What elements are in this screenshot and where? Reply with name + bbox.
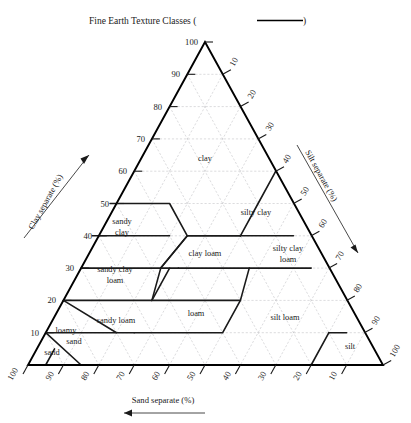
bottom-axis-tick-labels: 100 90 80 70 60 50 40 30 20 10	[5, 366, 339, 382]
bottom-tick-2: 80	[78, 370, 91, 382]
left-tick-4: 60	[118, 166, 127, 176]
bottom-tick-8: 20	[291, 370, 304, 382]
label-silt: silt	[345, 342, 356, 351]
label-silty-clay-loam-line2: loam	[280, 255, 297, 264]
right-axis-arrow-shaft	[297, 145, 358, 253]
label-sandy-clay-line2: clay	[115, 228, 130, 237]
bottom-tick-4: 60	[149, 370, 162, 382]
bottom-tick-0: 100	[5, 366, 20, 382]
ternary-grid	[46, 74, 365, 365]
label-silty-clay-loam-line1: silty clay	[273, 244, 304, 253]
left-axis-title-group: Clay separate (%)	[24, 155, 89, 238]
right-axis-arrowhead	[351, 245, 359, 254]
left-axis-arrowhead	[81, 155, 90, 164]
label-silty-clay: silty clay	[241, 208, 272, 217]
bottom-tick-1: 90	[43, 370, 56, 382]
bottom-tick-6: 40	[220, 370, 233, 382]
label-loamy-sand-line1: loamy	[56, 326, 78, 335]
right-tick-4: 50	[298, 185, 311, 197]
label-loam: loam	[188, 309, 205, 318]
right-tick-5: 60	[316, 217, 329, 229]
label-sandy-loam: sandy loam	[97, 316, 136, 325]
left-tick-3: 70	[136, 134, 145, 144]
ternary-diagram-svg: Fine Earth Texture Classes ( )	[0, 0, 411, 423]
label-clay-loam: clay loam	[189, 249, 222, 258]
texture-class-labels: clay silty clay sandy clay clay loam sil…	[44, 154, 355, 357]
label-sand: sand	[44, 348, 60, 357]
tick-marks	[23, 42, 391, 374]
left-tick-6: 40	[83, 231, 92, 241]
bottom-axis-title: Sand separate (%)	[132, 395, 195, 405]
soil-texture-triangle-figure: Fine Earth Texture Classes ( )	[0, 0, 411, 423]
right-axis-title: Silt separate (%)	[303, 148, 340, 203]
chart-title-close-paren: )	[303, 16, 306, 27]
chart-title: Fine Earth Texture Classes ( )	[89, 16, 306, 27]
bottom-tick-5: 50	[185, 370, 198, 382]
bottom-axis-arrowhead	[124, 410, 132, 417]
right-tick-8: 90	[369, 314, 382, 326]
right-tick-6: 70	[333, 249, 346, 261]
label-sandy-clay-loam-line2: loam	[107, 276, 124, 285]
bottom-tick-7: 30	[255, 370, 268, 382]
right-tick-3: 40	[280, 152, 293, 164]
chart-title-text: Fine Earth Texture Classes (	[89, 16, 196, 27]
label-sandy-clay-loam-line1: sandy clay	[97, 265, 133, 274]
bottom-tick-3: 70	[114, 370, 127, 382]
texture-class-boundaries	[46, 171, 347, 365]
right-axis-title-group: Silt separate (%)	[297, 145, 358, 253]
right-tick-9: 100	[387, 343, 402, 359]
label-clay: clay	[198, 154, 213, 163]
label-sandy-clay-line1: sandy	[112, 217, 132, 226]
left-tick-0: 100	[185, 37, 198, 47]
bottom-tick-9: 10	[326, 370, 339, 382]
left-tick-2: 80	[153, 102, 162, 112]
left-tick-8: 20	[47, 295, 56, 305]
right-tick-7: 80	[351, 282, 364, 294]
label-loamy-sand-line2: sand	[66, 337, 82, 346]
left-tick-1: 90	[171, 69, 180, 79]
left-tick-9: 10	[30, 328, 39, 338]
left-tick-7: 30	[65, 263, 74, 273]
left-axis-arrow-shaft	[24, 155, 89, 238]
right-tick-1: 20	[245, 88, 258, 100]
left-axis-title: Clay separate (%)	[26, 172, 65, 231]
left-tick-5: 50	[100, 199, 109, 209]
right-tick-2: 30	[263, 120, 276, 132]
boundary-silt-left	[311, 333, 329, 365]
bottom-axis-title-group: Sand separate (%)	[124, 395, 205, 417]
right-tick-0: 10	[227, 56, 240, 68]
label-silt-loam: silt loam	[270, 313, 300, 322]
